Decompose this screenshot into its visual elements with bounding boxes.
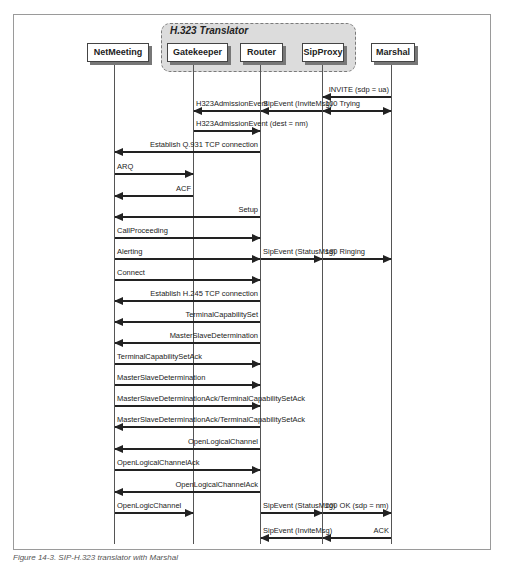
message-arrow — [194, 110, 260, 111]
figure-caption: Figure 14-3. SIP-H.323 translator with M… — [13, 553, 178, 562]
arrow-left-icon — [114, 445, 123, 453]
message-label: MasterSlaveDetermination — [170, 331, 258, 340]
message-arrow — [115, 173, 193, 174]
message-arrow — [194, 130, 260, 131]
message-label: H323AdmissionEvent (dest = nm) — [196, 119, 308, 128]
arrow-line — [115, 195, 193, 197]
arrow-line — [115, 237, 260, 239]
arrow-right-icon — [185, 509, 194, 517]
arrow-line — [115, 258, 260, 260]
arrow-line — [115, 173, 193, 175]
arrow-line — [261, 512, 322, 514]
arrow-left-icon — [114, 488, 123, 496]
arrow-left-icon — [260, 534, 269, 542]
message-label: Setup — [238, 205, 258, 214]
message-arrow — [115, 384, 260, 385]
message-arrow — [323, 258, 391, 259]
arrow-left-icon — [114, 297, 123, 305]
arrow-line — [115, 469, 260, 471]
arrow-right-icon — [252, 234, 261, 242]
arrow-line — [261, 110, 322, 112]
arrow-left-icon — [114, 339, 123, 347]
message-arrow — [115, 321, 260, 322]
arrow-right-icon — [383, 509, 392, 517]
actor-sipproxy: SipProxy — [302, 43, 344, 62]
message-arrow — [261, 110, 322, 111]
message-label: 100 Trying — [325, 99, 360, 108]
message-label: OpenLogicalChannel — [188, 437, 258, 446]
message-arrow — [261, 258, 322, 259]
arrow-line — [115, 300, 260, 302]
arrow-right-icon — [252, 255, 261, 263]
arrow-line — [115, 491, 260, 493]
arrow-line — [261, 258, 322, 260]
group-title: H.323 Translator — [170, 25, 248, 36]
lifeline-marshal — [391, 62, 392, 544]
message-label: Alerting — [117, 247, 142, 256]
message-arrow — [115, 279, 260, 280]
message-arrow — [115, 405, 260, 406]
message-label: MasterSlaveDeterminationAck/TerminalCapa… — [117, 415, 305, 424]
arrow-left-icon — [114, 423, 123, 431]
arrow-right-icon — [252, 276, 261, 284]
message-arrow — [115, 448, 260, 449]
arrow-line — [115, 342, 260, 344]
arrow-right-icon — [383, 255, 392, 263]
message-arrow — [323, 537, 391, 538]
arrow-left-icon — [114, 318, 123, 326]
arrow-right-icon — [252, 402, 261, 410]
message-arrow — [115, 300, 260, 301]
message-label: ARQ — [117, 162, 133, 171]
actor-router: Router — [240, 43, 283, 62]
message-arrow — [115, 342, 260, 343]
actor-gatekeeper: Gatekeeper — [167, 43, 228, 62]
arrow-line — [323, 258, 391, 260]
arrow-line — [194, 110, 260, 112]
lifeline-sipproxy — [322, 62, 323, 544]
arrow-line — [115, 512, 193, 514]
message-label: INVITE (sdp = ua) — [329, 85, 389, 94]
arrow-right-icon — [252, 360, 261, 368]
arrow-right-icon — [252, 381, 261, 389]
message-arrow — [115, 258, 260, 259]
message-arrow — [115, 512, 193, 513]
arrow-left-icon — [322, 534, 331, 542]
actor-netmeeting: NetMeeting — [87, 43, 149, 62]
arrow-left-icon — [193, 107, 202, 115]
message-label: CallProceeding — [117, 226, 168, 235]
message-arrow — [115, 469, 260, 470]
arrow-left-icon — [114, 192, 123, 200]
message-arrow — [261, 537, 322, 538]
message-label: OpenLogicChannel — [117, 501, 181, 510]
arrow-line — [115, 279, 260, 281]
arrow-right-icon — [252, 127, 261, 135]
message-arrow — [115, 237, 260, 238]
arrow-line — [115, 216, 260, 218]
arrow-line — [115, 448, 260, 450]
message-arrow — [261, 512, 322, 513]
message-label: Establish H.245 TCP connection — [150, 289, 258, 298]
actor-marshal: Marshal — [371, 43, 415, 62]
arrow-line — [323, 96, 391, 98]
message-label: ACF — [176, 184, 191, 193]
arrow-line — [115, 384, 260, 386]
arrow-line — [115, 151, 260, 153]
arrow-right-icon — [185, 170, 194, 178]
arrow-line — [323, 110, 391, 112]
arrow-line — [323, 537, 391, 539]
arrow-right-icon — [383, 107, 392, 115]
message-label: 180 Ringing — [325, 247, 365, 256]
message-label: 200 OK (sdp = nm) — [325, 501, 389, 510]
message-label: H323AdmissionEvent — [196, 99, 268, 108]
arrow-line — [261, 537, 322, 539]
arrow-left-icon — [114, 148, 123, 156]
arrow-line — [115, 321, 260, 323]
message-label: ACK — [374, 526, 389, 535]
arrow-right-icon — [252, 466, 261, 474]
lifeline-gatekeeper — [193, 62, 194, 544]
message-label: Establish Q.931 TCP connection — [150, 140, 258, 149]
message-arrow — [323, 96, 391, 97]
message-label: OpenLogicalChannelAck — [117, 458, 200, 467]
arrow-line — [115, 363, 260, 365]
message-arrow — [323, 512, 391, 513]
